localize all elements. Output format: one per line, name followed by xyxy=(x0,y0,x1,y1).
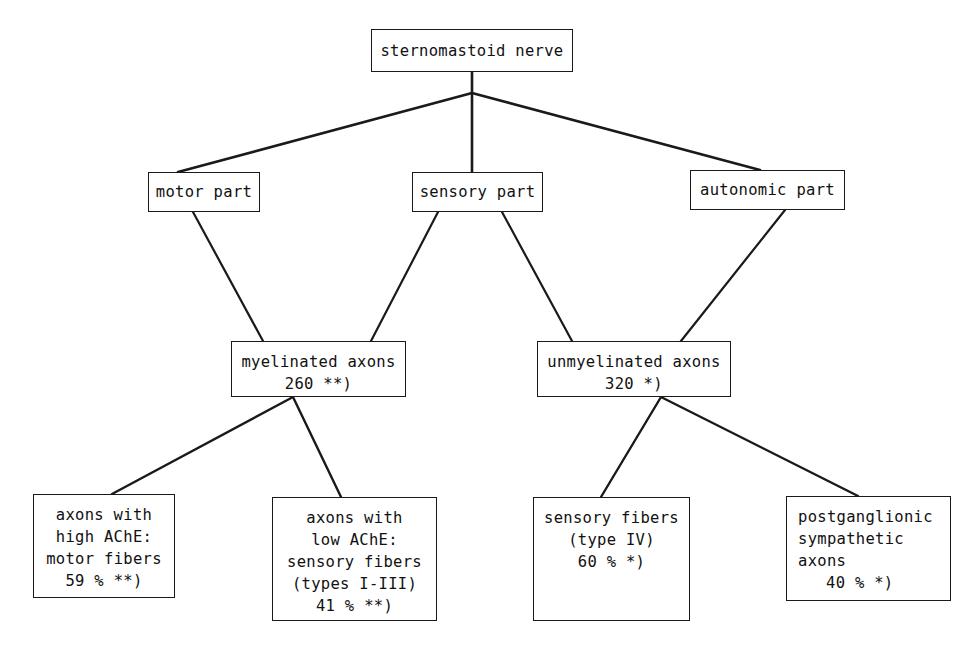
edge-myelinated-to-low-ache xyxy=(293,397,341,497)
edge-sensory-part-to-unmyelinated xyxy=(502,212,572,341)
node-axons-high-ache-line-3: motor fibers xyxy=(46,548,162,570)
node-sensory-part-line-1: sensory part xyxy=(420,181,536,203)
node-sternomastoid-nerve[interactable]: sternomastoid nerve xyxy=(371,29,573,72)
edge-sensory-part-to-myelinated xyxy=(371,212,438,341)
node-axons-low-ache-line-4: (types I-III) xyxy=(292,573,417,595)
node-postganglionic-sympathetic-axons[interactable]: postganglionic sympathetic axons 40 % *) xyxy=(786,496,951,601)
node-sensory-fibers-type-iv-line-1: sensory fibers xyxy=(544,507,679,529)
node-sensory-fibers-type-iv[interactable]: sensory fibers (type IV) 60 % *) xyxy=(533,497,690,621)
node-sensory-fibers-type-iv-line-2: (type IV) xyxy=(568,529,655,551)
node-axons-high-ache-line-4: 59 % **) xyxy=(65,570,142,592)
node-myelinated-axons-line-1: myelinated axons xyxy=(241,351,395,373)
node-motor-part-line-1: motor part xyxy=(156,181,252,203)
node-postganglionic-line-3: axons xyxy=(798,550,846,572)
node-sensory-part[interactable]: sensory part xyxy=(412,172,543,212)
node-postganglionic-line-1: postganglionic xyxy=(798,506,933,528)
node-axons-high-ache-line-2: high AChE: xyxy=(56,526,152,548)
node-autonomic-part-line-1: autonomic part xyxy=(700,179,835,201)
node-axons-high-ache-line-1: axons with xyxy=(56,504,152,526)
node-postganglionic-line-2: sympathetic xyxy=(798,528,904,550)
edge-unmyelinated-to-postganglionic xyxy=(661,397,858,496)
node-unmyelinated-axons-line-2: 320 *) xyxy=(605,373,663,395)
edge-root-to-motor-part xyxy=(178,93,472,172)
node-sensory-fibers-type-iv-line-3: 60 % *) xyxy=(578,551,645,573)
node-postganglionic-line-4: 40 % *) xyxy=(798,572,893,594)
node-axons-low-ache-line-3: sensory fibers xyxy=(287,551,422,573)
edge-autonomic-part-to-unmyelinated xyxy=(681,210,785,341)
node-axons-low-ache-line-1: axons with xyxy=(306,507,402,529)
node-axons-low-ache-line-2: low AChE: xyxy=(311,529,398,551)
node-axons-low-ache-line-5: 41 % **) xyxy=(316,595,393,617)
node-unmyelinated-axons-line-1: unmyelinated axons xyxy=(547,351,720,373)
edge-myelinated-to-high-ache xyxy=(112,397,293,494)
edge-unmyelinated-to-sensory-fibers-iv xyxy=(601,397,661,497)
node-sternomastoid-nerve-line-1: sternomastoid nerve xyxy=(380,40,563,62)
node-autonomic-part[interactable]: autonomic part xyxy=(690,170,845,210)
node-myelinated-axons[interactable]: myelinated axons 260 **) xyxy=(231,341,406,397)
node-myelinated-axons-line-2: 260 **) xyxy=(285,373,352,395)
node-axons-high-ache[interactable]: axons with high AChE: motor fibers 59 % … xyxy=(33,494,175,598)
edge-motor-part-to-myelinated xyxy=(193,212,263,341)
diagram-canvas: sternomastoid nerve motor part sensory p… xyxy=(0,0,978,647)
node-axons-low-ache[interactable]: axons with low AChE: sensory fibers (typ… xyxy=(272,497,437,621)
edge-root-to-autonomic-part xyxy=(472,93,760,170)
node-motor-part[interactable]: motor part xyxy=(148,172,260,212)
node-unmyelinated-axons[interactable]: unmyelinated axons 320 *) xyxy=(537,341,731,397)
